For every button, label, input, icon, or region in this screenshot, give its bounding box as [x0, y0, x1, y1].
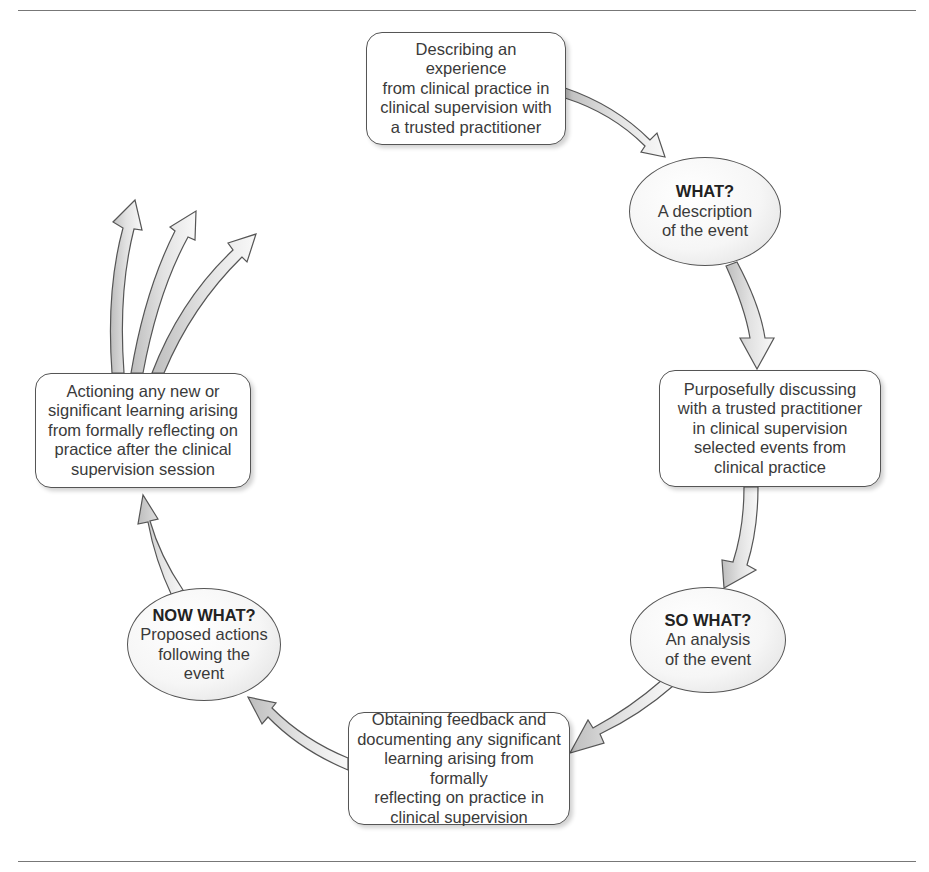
- node-what: WHAT? A description of the event: [629, 157, 781, 266]
- node-text-line: from formally reflecting on: [48, 421, 238, 441]
- node-text-line: A description: [658, 202, 752, 222]
- node-purposefully-discussing: Purposefully discussing with a trusted p…: [659, 370, 881, 487]
- node-heading: SO WHAT?: [665, 611, 752, 631]
- arrow-what-to-discuss: [726, 262, 774, 369]
- node-text-line: Obtaining feedback and: [357, 710, 561, 730]
- node-obtaining-feedback: Obtaining feedback and documenting any s…: [348, 712, 570, 825]
- node-text-line: of the event: [662, 221, 748, 241]
- node-text-line: in clinical supervision: [678, 419, 862, 439]
- arrow-so-what-to-feedback: [570, 680, 673, 753]
- node-actioning-learning: Actioning any new or significant learnin…: [35, 373, 251, 488]
- node-text-line: clinical supervision with: [375, 98, 557, 118]
- node-text-line: selected events from: [678, 438, 862, 458]
- node-text-line: supervision session: [48, 460, 238, 480]
- node-text-line: practice after the clinical: [48, 440, 238, 460]
- node-text-line: documenting any significant: [357, 730, 561, 750]
- node-text-line: An analysis: [666, 630, 750, 650]
- node-so-what: SO WHAT? An analysis of the event: [630, 587, 786, 693]
- node-text-line: with a trusted practitioner: [678, 399, 862, 419]
- node-text-line: Purposefully discussing: [678, 380, 862, 400]
- node-heading: WHAT?: [676, 182, 734, 202]
- arrow-discuss-to-so-what: [722, 487, 758, 588]
- node-text-line: clinical practice: [678, 458, 862, 478]
- node-describe-experience: Describing an experience from clinical p…: [366, 32, 566, 145]
- node-text-line: clinical supervision: [357, 808, 561, 828]
- node-text-line: following the: [158, 645, 250, 665]
- arrow-now-what-to-actioning: [138, 495, 183, 596]
- arrow-feedback-to-now-what: [248, 697, 348, 770]
- node-text-line: Proposed actions: [140, 625, 268, 645]
- node-heading: NOW WHAT?: [152, 606, 255, 626]
- node-text-line: Actioning any new or: [48, 382, 238, 402]
- node-text-line: reflecting on practice in: [357, 788, 561, 808]
- node-text-line: learning arising from formally: [357, 749, 561, 788]
- node-text-line: a trusted practitioner: [375, 118, 557, 138]
- node-text-line: Describing an experience: [375, 40, 557, 79]
- node-text-line: event: [184, 664, 224, 684]
- node-text-line: of the event: [665, 650, 751, 670]
- node-text-line: from clinical practice in: [375, 79, 557, 99]
- arrow-describe-to-what: [565, 88, 665, 157]
- node-text-line: significant learning arising: [48, 401, 238, 421]
- node-now-what: NOW WHAT? Proposed actions following the…: [127, 588, 281, 701]
